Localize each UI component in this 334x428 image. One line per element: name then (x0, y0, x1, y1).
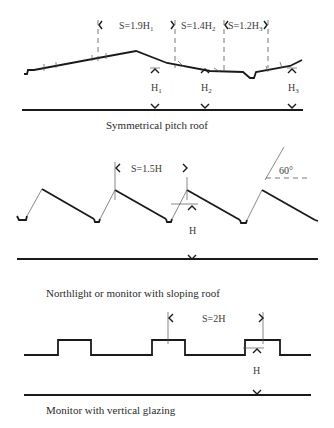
caption-northlight: Northlight or monitor with sloping roof (46, 287, 220, 299)
dimension-arrow-right (183, 164, 187, 172)
height-label-3: H3 (288, 82, 299, 95)
spacing-label-1: S=1.9H1 (119, 20, 154, 33)
symmetrical-pitch-roof-diagram: S=1.9H1 S=1.4H2 S=1.2H3 H1 H2 H3 Symmetr… (22, 20, 303, 131)
height-label: H (253, 365, 260, 376)
height-label-1: H1 (151, 82, 162, 95)
height-arrow-down (151, 104, 159, 108)
dimension-arrow-right (259, 314, 263, 322)
height-label-2: H2 (201, 82, 212, 95)
sawtooth-profile (17, 189, 318, 223)
northlight-roof-diagram: S=1.5H H 60° Northlight or monitor with … (17, 147, 318, 299)
roof-spacing-diagram: S=1.9H1 S=1.4H2 S=1.2H3 H1 H2 H3 Symmetr… (0, 0, 334, 428)
height-arrow-up (288, 69, 296, 73)
caption-monitor-vertical: Monitor with vertical glazing (46, 404, 176, 416)
monitor-roof-profile (24, 340, 311, 355)
spacing-label: S=1.5H (131, 163, 162, 174)
spacing-label: S=2H (202, 313, 225, 324)
spacing-label-2: S=1.4H2 (181, 20, 216, 33)
dimension-arrow-right (171, 21, 174, 29)
height-arrow-up (151, 69, 159, 73)
dimension-arrow-left (169, 314, 173, 322)
roof-tick-marks (44, 53, 282, 72)
dimension-arrow-left (99, 21, 102, 29)
dimension-arrow-left (116, 164, 120, 172)
dimension-arrow-right (264, 21, 267, 29)
monitor-vertical-diagram: S=2H H Monitor with vertical glazing (24, 312, 311, 416)
height-arrow-down (253, 390, 261, 394)
spacing-label-3: S=1.2H3 (228, 20, 263, 33)
angle-label: 60° (279, 165, 293, 176)
pitch-roof-profile (24, 51, 302, 78)
height-arrow-up (253, 349, 261, 353)
height-arrow-down (288, 104, 296, 108)
caption-symmetrical-pitch-roof: Symmetrical pitch roof (106, 119, 208, 131)
height-arrow-down (201, 104, 209, 108)
height-arrow-up (188, 206, 196, 210)
height-label: H (189, 225, 196, 236)
